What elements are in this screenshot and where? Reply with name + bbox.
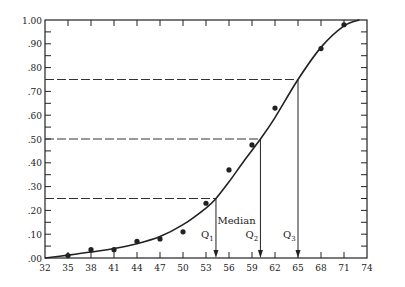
quartile-arrowhead (213, 250, 218, 258)
x-tick-label: 41 (108, 263, 119, 273)
y-tick-label: .50 (28, 135, 43, 145)
quartile-labels: Q1Q2MedianQ3 (201, 215, 296, 243)
axes: 323538414447505356596265687174.00.10.20.… (22, 16, 373, 274)
x-tick-label: 62 (269, 263, 280, 273)
data-point (341, 22, 346, 27)
y-tick-label: .60 (28, 111, 43, 121)
quartile-arrowhead (296, 250, 301, 258)
x-tick-label: 32 (39, 263, 50, 273)
quartile-letter: Q (245, 229, 253, 240)
x-tick-label: 65 (292, 263, 304, 273)
data-point (180, 229, 185, 234)
y-tick-label: .40 (28, 158, 43, 168)
median-label: Median (217, 215, 256, 226)
data-point (157, 236, 162, 241)
quartile-label: Q2 (245, 229, 258, 243)
x-tick-label: 44 (131, 263, 143, 273)
y-tick-label: 1.00 (22, 16, 42, 26)
data-point (318, 46, 323, 51)
data-point (226, 167, 231, 172)
y-tick-label: .10 (28, 230, 43, 240)
y-tick-label: .00 (28, 254, 43, 264)
x-tick-label: 56 (223, 263, 235, 273)
quartile-arrowhead (258, 250, 263, 258)
x-tick-label: 74 (361, 263, 373, 273)
quartile-letter: Q (201, 229, 209, 240)
quartile-label: Q3 (283, 229, 296, 243)
x-tick-label: 47 (154, 263, 166, 273)
data-point (111, 247, 116, 252)
data-point (134, 239, 139, 244)
x-tick-label: 35 (62, 263, 74, 273)
y-tick-label: .30 (28, 182, 43, 192)
data-point (203, 201, 208, 206)
quartile-subscript: 2 (254, 235, 258, 243)
x-tick-label: 71 (338, 263, 349, 273)
data-point (65, 253, 70, 258)
y-tick-label: .90 (28, 39, 43, 49)
quartile-subscript: 1 (209, 235, 213, 243)
x-tick-label: 38 (85, 263, 97, 273)
x-tick-label: 53 (200, 263, 212, 273)
y-tick-label: .20 (28, 206, 43, 216)
x-tick-label: 50 (177, 263, 189, 273)
data-points (65, 22, 346, 258)
data-point (88, 247, 93, 252)
ogive-chart: 323538414447505356596265687174.00.10.20.… (0, 0, 405, 287)
quartile-label: Q1 (201, 229, 214, 243)
data-point (272, 105, 277, 110)
y-tick-label: .70 (28, 87, 43, 97)
quartile-letter: Q (283, 229, 291, 240)
x-tick-label: 59 (246, 263, 258, 273)
y-tick-label: .80 (28, 63, 43, 73)
quartile-subscript: 3 (291, 235, 295, 243)
x-tick-label: 68 (315, 263, 327, 273)
data-point (249, 142, 254, 147)
